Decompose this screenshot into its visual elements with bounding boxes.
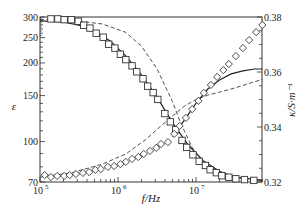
square-marker xyxy=(219,172,225,178)
measured-markers xyxy=(41,16,266,184)
diamond-marker xyxy=(253,29,260,36)
right-tick-label: 0.32 xyxy=(264,177,282,188)
square-marker xyxy=(183,144,189,150)
diamond-marker xyxy=(246,37,253,44)
left-tick-label: 150 xyxy=(23,90,38,101)
diamond-marker xyxy=(239,44,246,51)
x-tick-label: 10 xyxy=(189,185,199,196)
left-axis-label: ε xyxy=(12,100,17,112)
square-marker xyxy=(80,22,86,28)
dielectric-conductivity-chart: 105106107 70100150200250300 0.320.340.36… xyxy=(0,0,306,224)
solid-permittivity-curve xyxy=(40,21,262,181)
square-marker xyxy=(61,16,67,22)
square-marker xyxy=(150,89,156,95)
left-tick-label: 250 xyxy=(23,32,38,43)
x-tick-exponent: 6 xyxy=(123,183,127,191)
diamond-marker xyxy=(164,139,171,146)
square-marker xyxy=(105,41,111,47)
diamond-marker xyxy=(47,173,54,180)
diamond-marker xyxy=(232,52,239,59)
square-marker xyxy=(140,76,146,82)
square-marker xyxy=(162,110,168,116)
left-tick-label: 200 xyxy=(23,57,38,68)
diamond-marker xyxy=(220,66,227,73)
right-tick-label: 0.38 xyxy=(264,12,282,23)
right-tick-label: 0.34 xyxy=(264,122,282,133)
square-marker xyxy=(93,30,99,36)
square-marker xyxy=(112,45,118,51)
square-marker xyxy=(68,16,74,22)
square-marker xyxy=(233,176,239,182)
square-marker xyxy=(129,63,135,69)
square-marker xyxy=(196,158,202,164)
diamond-marker xyxy=(225,60,232,67)
plot-border xyxy=(40,17,262,182)
square-marker xyxy=(226,174,232,180)
square-marker xyxy=(190,152,196,158)
square-marker xyxy=(155,96,161,102)
diamond-marker xyxy=(207,81,214,88)
diamond-marker xyxy=(41,172,48,179)
dashed-permittivity-curve xyxy=(40,19,262,180)
square-marker xyxy=(134,69,140,75)
square-marker xyxy=(167,119,173,125)
diamond-marker xyxy=(111,162,118,169)
x-tick-exponent: 5 xyxy=(45,183,49,191)
diamond-marker xyxy=(54,172,61,179)
left-tick-label: 300 xyxy=(23,12,38,23)
square-marker xyxy=(87,25,93,31)
square-marker xyxy=(48,16,54,22)
square-marker xyxy=(144,83,150,89)
square-marker xyxy=(179,137,185,143)
x-tick-exponent: 7 xyxy=(201,183,205,191)
square-marker xyxy=(251,177,257,183)
square-marker xyxy=(241,176,247,182)
square-marker xyxy=(100,34,106,40)
left-axis-ticks: 70100150200250300 xyxy=(23,12,45,188)
diamond-marker xyxy=(97,165,104,172)
plot-frame xyxy=(40,17,262,182)
diamond-marker xyxy=(66,172,73,179)
right-axis-label: κ/S·m⁻¹ xyxy=(285,83,297,117)
square-marker xyxy=(123,56,129,62)
left-tick-label: 100 xyxy=(23,136,38,147)
x-tick-label: 10 xyxy=(111,185,121,196)
model-curves xyxy=(40,19,262,180)
diamond-marker xyxy=(104,163,111,170)
square-marker xyxy=(55,16,61,22)
right-tick-label: 0.36 xyxy=(264,67,282,78)
x-axis-label: f/Hz xyxy=(142,192,161,204)
left-tick-label: 70 xyxy=(28,177,38,188)
diamond-marker xyxy=(72,170,79,177)
diamond-marker xyxy=(182,114,189,121)
square-marker xyxy=(207,167,213,173)
right-axis-ticks: 0.320.340.360.38 xyxy=(257,12,282,188)
